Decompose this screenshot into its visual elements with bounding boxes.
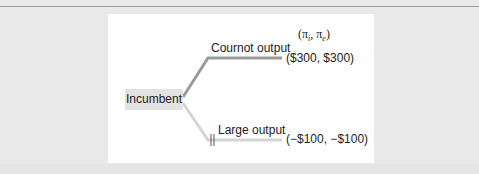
branch-cournot-line xyxy=(183,58,282,97)
cournot-output-label: Cournot output xyxy=(211,41,290,55)
cournot-payoff: ($300, $300) xyxy=(286,51,354,65)
caption-strip xyxy=(0,164,479,174)
incumbent-node: Incumbent xyxy=(125,89,183,110)
large-output-label: Large output xyxy=(218,123,285,137)
tree-branches xyxy=(0,0,479,174)
payoff-header: (πi, πe) xyxy=(298,27,330,43)
large-payoff: (−$100, −$100) xyxy=(286,132,368,146)
